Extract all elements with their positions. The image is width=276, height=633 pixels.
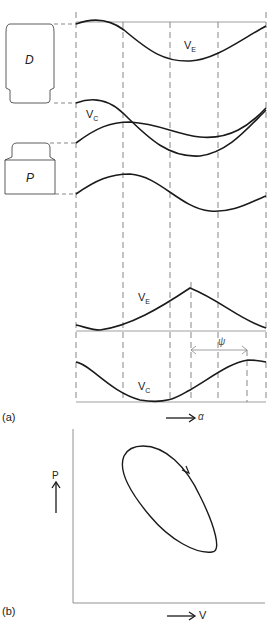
reference-lines [76, 22, 266, 402]
p-arrow-icon [52, 482, 60, 513]
panel-b-label: (b) [2, 605, 15, 617]
psi-label: ψ [218, 336, 225, 347]
ve-bottom-label: VE [138, 291, 150, 305]
alpha-arrow-icon [166, 414, 195, 422]
v-axis-label: V [199, 609, 206, 621]
v-arrow-icon [167, 612, 195, 620]
phase-arrow [191, 346, 247, 354]
displacer-label: D [25, 53, 34, 67]
curve-ve-bottom [76, 288, 266, 330]
curve-vc-top [76, 100, 266, 157]
p-axis-label: P [52, 470, 59, 481]
curve-ve-top [76, 20, 266, 61]
stirling-diagram [0, 0, 276, 633]
curve-piston [76, 174, 266, 211]
vc-bottom-label: VC [138, 380, 150, 394]
piston-shape [5, 143, 55, 194]
vc-top-label: VC [86, 108, 98, 122]
curve-vc-bottom [76, 360, 266, 401]
ve-top-label: VE [184, 39, 196, 53]
pv-loop [122, 446, 216, 552]
panel-a-label: (a) [2, 411, 15, 423]
upper-curves [76, 20, 266, 401]
alpha-label: α [198, 411, 204, 422]
piston-label: P [26, 171, 34, 185]
